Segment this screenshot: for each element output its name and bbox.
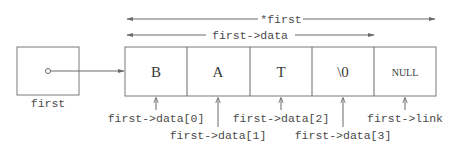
cell-value-link: NULL [392,67,419,78]
cell-label-2: first->data[2] [233,112,330,125]
struct-node: B A T \0 NULL [125,47,436,96]
cell-label-link: first->link [367,112,443,125]
cell-annotations: first->data[0] first->data[1] first->dat… [108,98,443,142]
span-data-label: first->data [212,29,288,42]
cell-label-1: first->data[1] [170,129,267,142]
pointer-dot-icon [46,69,51,74]
cell-value-0: B [151,64,161,80]
cell-value-2: T [276,64,285,80]
cell-label-0: first->data[0] [108,112,205,125]
pointer-label: first [31,97,66,110]
cell-label-3: first->data[3] [295,129,392,142]
cell-value-3: \0 [337,64,349,80]
pointer-variable: first [17,47,124,110]
linked-node-diagram: *first first->data first B A T \0 NULL f… [0,0,459,152]
span-whole-label: *first [260,13,301,26]
span-data-array: first->data [127,29,374,42]
cell-value-1: A [213,64,224,80]
span-whole-struct: *first [127,13,435,26]
